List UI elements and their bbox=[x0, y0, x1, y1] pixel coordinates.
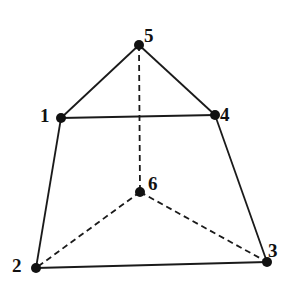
edge-2-3 bbox=[36, 262, 267, 268]
edge-1-4 bbox=[61, 115, 215, 118]
vertex-label-3: 3 bbox=[268, 240, 278, 261]
vertex-1 bbox=[56, 113, 66, 123]
vertex-6 bbox=[135, 187, 145, 197]
edge-5-4 bbox=[139, 45, 215, 115]
edge-1-2 bbox=[36, 118, 61, 268]
labels-group: 123456 bbox=[12, 25, 278, 276]
polyhedron-diagram: 123456 bbox=[0, 0, 297, 286]
vertex-2 bbox=[31, 263, 41, 273]
edge-4-3 bbox=[215, 115, 267, 262]
edge-5-6 bbox=[139, 45, 140, 192]
edge-6-3 bbox=[140, 192, 267, 262]
vertices-group bbox=[31, 40, 272, 273]
edges-group bbox=[36, 45, 267, 268]
edge-6-2 bbox=[36, 192, 140, 268]
vertex-label-2: 2 bbox=[12, 255, 22, 276]
edge-1-5 bbox=[61, 45, 139, 118]
vertex-label-5: 5 bbox=[144, 25, 154, 46]
vertex-label-6: 6 bbox=[148, 173, 158, 194]
vertex-4 bbox=[210, 110, 220, 120]
vertex-label-1: 1 bbox=[40, 105, 50, 126]
vertex-label-4: 4 bbox=[220, 104, 230, 125]
vertex-5 bbox=[134, 40, 144, 50]
